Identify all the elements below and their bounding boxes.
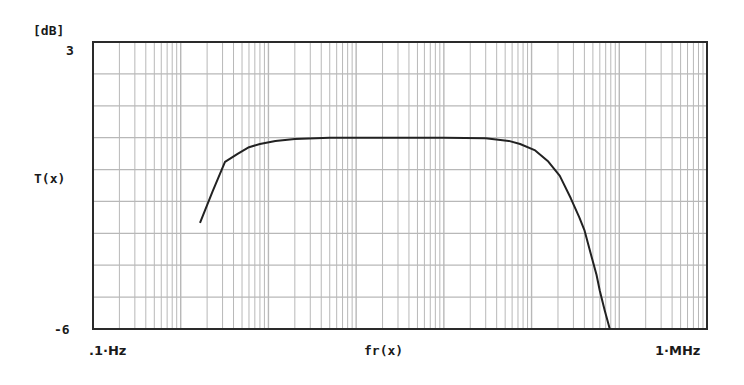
y-axis-label: T(x)	[34, 172, 65, 185]
y-unit-label: [dB]	[33, 24, 64, 37]
grid-lines	[93, 42, 707, 329]
y-tick-bottom: -6	[54, 323, 70, 336]
x-tick-right: 1·MHz	[655, 344, 700, 357]
x-axis-label: fr(x)	[364, 344, 403, 357]
y-tick-top: 3	[66, 44, 74, 57]
x-tick-left: .1·Hz	[89, 344, 126, 357]
frequency-response-plot	[0, 0, 744, 385]
